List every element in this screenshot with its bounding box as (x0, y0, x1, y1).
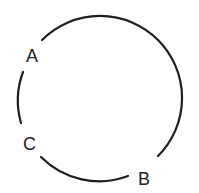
point-label-a: A (26, 46, 38, 66)
point-label-c: C (23, 134, 36, 154)
arc-c-to-b (41, 157, 128, 181)
circle-diagram: A B C (0, 0, 199, 193)
arc-a-to-c (18, 72, 23, 123)
point-label-b: B (138, 169, 150, 189)
arc-a-to-b (42, 16, 182, 156)
